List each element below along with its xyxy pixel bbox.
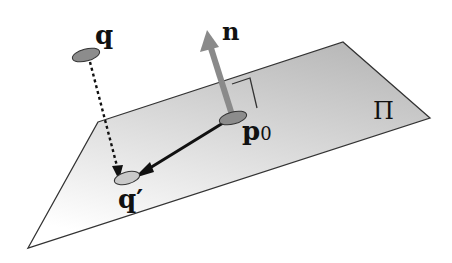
label-p0: p0 — [242, 118, 272, 144]
label-n: n — [222, 20, 239, 44]
label-q: q — [95, 22, 113, 48]
label-plane-pi: Π — [373, 99, 394, 123]
label-q-prime: q′ — [118, 186, 143, 212]
label-p0-subscript: 0 — [260, 123, 271, 144]
plane-pi — [28, 42, 430, 248]
normal-arrowhead — [200, 30, 219, 52]
label-p0-main: p — [242, 116, 260, 146]
